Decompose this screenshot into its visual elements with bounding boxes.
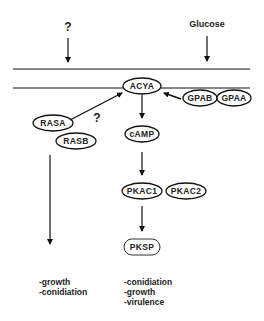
arrow-gpab-to-acya xyxy=(164,93,181,99)
output-item: -conidiation xyxy=(124,277,172,287)
node-rasa: RASA xyxy=(40,118,65,128)
node-rasb: RASB xyxy=(63,136,88,146)
camp-pathway-outputs: -conidiation -growth -virulence xyxy=(124,277,172,307)
node-acya: ACYA xyxy=(130,81,155,91)
output-item: -growth xyxy=(124,287,172,297)
output-item: -conidiation xyxy=(39,287,87,297)
ras-pathway-outputs: -growth -conidiation xyxy=(39,277,87,297)
output-item: -growth xyxy=(39,277,87,287)
unknown-ras-link-label: ? xyxy=(93,111,100,125)
unknown-signal-label: ? xyxy=(64,20,71,34)
node-gpab: GPAB xyxy=(187,93,212,103)
signaling-pathway-diagram: ? Glucose ? ACYA GPAB GPAA RASA RASB cAM… xyxy=(0,0,264,321)
node-pkac1: PKAC1 xyxy=(127,186,157,196)
node-pksp: PKSP xyxy=(130,242,154,252)
output-item: -virulence xyxy=(124,297,172,307)
node-camp: cAMP xyxy=(130,129,155,139)
glucose-label: Glucose xyxy=(189,19,225,29)
diagram-graphics xyxy=(0,0,264,321)
node-pkac2: PKAC2 xyxy=(171,186,201,196)
node-gpaa: GPAA xyxy=(221,93,246,103)
